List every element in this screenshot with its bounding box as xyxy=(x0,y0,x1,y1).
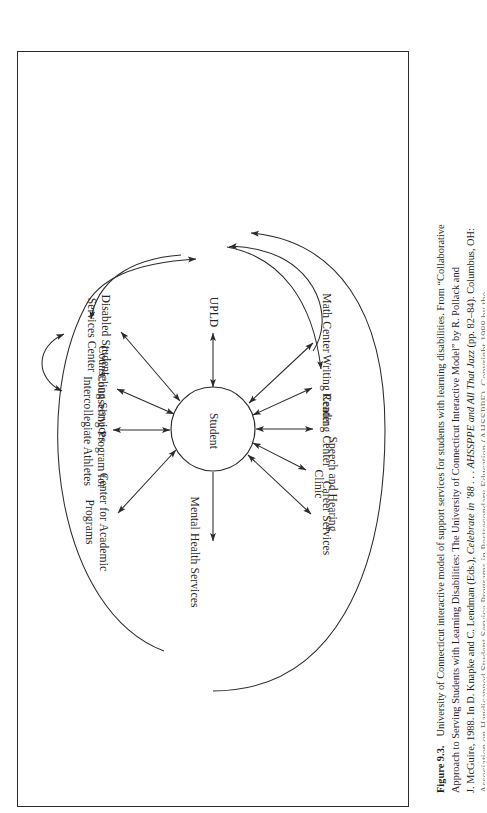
edge-student-disabled-student-services xyxy=(121,332,180,401)
edge-student-math-center xyxy=(249,343,313,403)
figure-page: Student UPLD Math Center Writing Center … xyxy=(0,0,487,813)
edge-student-writing-center xyxy=(253,388,312,415)
edge-student-counseling-services xyxy=(117,389,174,414)
caption-line-2: Approach to Serving Students with Learni… xyxy=(449,23,464,793)
figure-caption-rotation-wrapper: Figure 9.3.University of Connecticut int… xyxy=(434,23,486,793)
figure-rotation-wrapper: Student UPLD Math Center Writing Center … xyxy=(17,51,409,807)
caption-figure-number: Figure 9.3. xyxy=(435,746,446,793)
arc-to-writing-center xyxy=(227,247,321,369)
caption-line-3-part-b: (pp. 82–84). Columbus, OH: xyxy=(465,228,476,350)
arc-inner-to-upld xyxy=(229,247,322,351)
arc-mental-health-to-upld xyxy=(58,259,196,651)
caption-line-4: Association on Handicapped Student Servi… xyxy=(478,23,485,793)
node-label-upld: UPLD xyxy=(206,291,220,333)
edge-disabled-services-counseling-services xyxy=(42,334,64,391)
node-label-mental-health-services: Mental Health Services xyxy=(187,487,201,617)
node-label-math-center: Math Center xyxy=(319,287,333,359)
caption-line-3-title: Celebrate in ’88 . . . AHSSPPE and All T… xyxy=(465,350,476,554)
edge-student-speech-hearing-clinic xyxy=(253,443,306,470)
node-label-career-services: Career Services xyxy=(319,476,333,560)
caption-line-3: J. McGuire, 1988. In D. Knapke and C. Le… xyxy=(464,23,479,793)
figure-caption: Figure 9.3.University of Connecticut int… xyxy=(434,23,485,793)
node-label-student: Student xyxy=(206,409,220,453)
edge-student-career-services xyxy=(248,455,311,514)
edge-student-center-academic-programs xyxy=(118,450,176,513)
node-label-center-for-academic-programs: Center for AcademicPrograms xyxy=(83,467,110,577)
caption-line-3-part-a: J. McGuire, 1988. In D. Knapke and C. Le… xyxy=(465,554,476,793)
caption-line-1: Figure 9.3.University of Connecticut int… xyxy=(434,23,449,793)
caption-line-1-text: University of Connecticut interactive mo… xyxy=(435,224,446,736)
